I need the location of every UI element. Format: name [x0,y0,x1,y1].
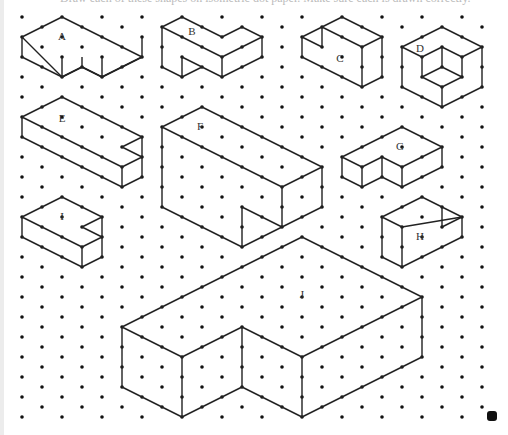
grid-dot [60,355,64,359]
grid-dot [480,305,484,309]
shape-label: I [60,210,64,222]
grid-dot [460,355,464,359]
grid-dot [380,15,384,19]
shape-label: D [416,42,424,54]
grid-dot [120,105,124,109]
grid-dot [40,85,44,89]
corner-marker-icon [487,411,497,421]
grid-dot [200,265,204,269]
grid-dot [320,145,324,149]
grid-dot [180,235,184,239]
grid-dot [160,365,164,369]
grid-dot [60,395,64,399]
grid-dot [40,345,44,349]
grid-dot [360,105,364,109]
grid-dot [340,235,344,239]
grid-dot [220,135,224,139]
shape-edge [162,27,202,77]
grid-dot [260,195,264,199]
grid-dot [340,375,344,379]
grid-dot [460,135,464,139]
grid-dot [20,75,24,79]
grid-dot [360,205,364,209]
grid-dot [100,315,104,319]
grid-dot [20,335,24,339]
grid-dot [340,355,344,359]
grid-dot [80,125,84,129]
grid-dot [380,335,384,339]
grid-dot [460,115,464,119]
grid-dot [460,275,464,279]
grid-dot [300,315,304,319]
grid-dot [280,125,284,129]
grid-dot [280,45,284,49]
grid-dot [460,155,464,159]
shape-label: H [416,230,424,242]
shape-b: B [162,17,262,77]
grid-dot [160,325,164,329]
grid-dot [480,205,484,209]
grid-dot [100,15,104,19]
grid-dot [120,305,124,309]
grid-dot [340,415,344,419]
shape-edge [382,217,462,267]
grid-dot [180,315,184,319]
grid-dot [460,195,464,199]
shape-d: D [402,27,482,107]
shape-edge [162,127,282,247]
grid-dot [120,85,124,89]
grid-dot [280,365,284,369]
grid-dot [220,375,224,379]
grid-dot [420,15,424,19]
grid-dot [80,405,84,409]
grid-dot [180,275,184,279]
grid-dot [340,95,344,99]
grid-dot [200,325,204,329]
grid-dot [300,15,304,19]
grid-dot [140,215,144,219]
grid-dot [200,305,204,309]
grid-dot [20,275,24,279]
grid-dot [460,395,464,399]
grid-dot [60,375,64,379]
grid-dot [40,165,44,169]
grid-dot [360,225,364,229]
grid-dot [60,415,64,419]
grid-dot [420,115,424,119]
grid-dot [100,335,104,339]
grid-dot [60,275,64,279]
grid-dot [100,375,104,379]
grid-dot [380,295,384,299]
shape-label: G [396,140,404,152]
shape-edge [122,237,422,357]
shape-edge [22,97,142,167]
grid-dot [460,375,464,379]
grid-dot [40,45,44,49]
grid-dot [140,95,144,99]
grid-dot [120,25,124,29]
grid-dot [440,305,444,309]
shape-edge [82,57,102,77]
grid-dot [280,325,284,329]
grid-dot [360,405,364,409]
grid-dot [340,215,344,219]
grid-dot [160,245,164,249]
grid-dot [80,365,84,369]
grid-dot [20,375,24,379]
grid-dot [220,95,224,99]
grid-dot [240,285,244,289]
grid-dot [200,385,204,389]
grid-dot [320,265,324,269]
grid-dot [380,195,384,199]
grid-dot [220,215,224,219]
shape-label: E [59,112,66,124]
grid-dot [40,405,44,409]
grid-dot [480,165,484,169]
grid-dot [60,175,64,179]
grid-dot [380,415,384,419]
grid-dot [80,345,84,349]
isometric-dot-grid-canvas: ABCDEFGHIJ [0,0,508,435]
grid-dot [400,345,404,349]
grid-dot [200,245,204,249]
grid-dot [260,115,264,119]
